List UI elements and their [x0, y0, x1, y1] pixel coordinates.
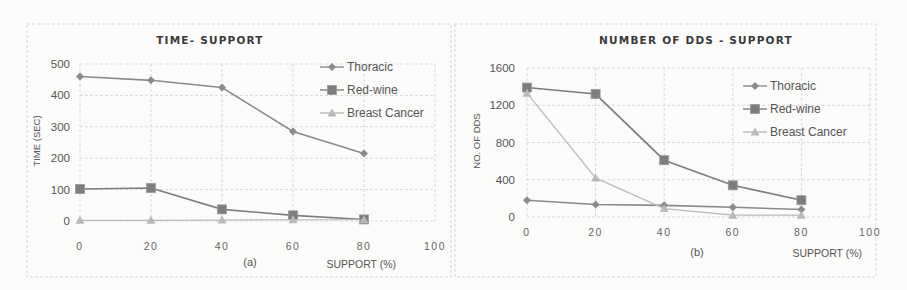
chart-frame: [455, 24, 876, 277]
x-tick-label: 20: [144, 240, 159, 252]
thoracic-marker: [289, 128, 297, 136]
chart-title: NUMBER OF DDS - SUPPORT: [599, 34, 793, 46]
x-tick-label: 60: [286, 240, 301, 252]
y-tick-label: 300: [51, 121, 70, 133]
legend-label: Thoracic: [770, 79, 816, 93]
red-wine-marker: [797, 196, 806, 205]
x-tick-label: 20: [588, 226, 603, 238]
y-tick-label: 400: [496, 174, 515, 186]
legend-thoracic-marker: [751, 82, 759, 90]
legend-item-breast-cancer: Breast Cancer: [320, 106, 424, 120]
x-axis-label: SUPPORT (%): [792, 247, 862, 259]
x-tick-label: 60: [725, 226, 740, 238]
thoracic-marker: [360, 149, 368, 157]
y-tick-label: 400: [51, 89, 70, 101]
chart-dds-support: NUMBER OF DDS - SUPPORT04008001200160002…: [455, 24, 881, 277]
legend-label: Red-wine: [770, 102, 821, 116]
legend-red-wine-marker: [328, 86, 337, 95]
legend-label: Red-wine: [347, 83, 398, 97]
y-tick-label: 500: [51, 58, 70, 70]
y-tick-label: 1200: [489, 99, 515, 111]
x-tick-label: 40: [657, 226, 672, 238]
x-tick-label: 100: [424, 240, 446, 252]
legend: ThoracicRed-wineBreast Cancer: [320, 60, 424, 120]
legend-item-breast-cancer: Breast Cancer: [743, 125, 847, 139]
y-tick-label: 0: [64, 215, 70, 227]
red-wine-marker: [76, 184, 85, 193]
legend: ThoracicRed-wineBreast Cancer: [743, 79, 847, 139]
subfigure-caption: (a): [243, 256, 256, 268]
x-tick-label: 80: [794, 226, 809, 238]
red-wine-marker: [147, 184, 156, 193]
x-tick-label: 80: [357, 240, 372, 252]
legend-label: Thoracic: [347, 60, 393, 74]
thoracic-marker: [76, 73, 84, 81]
y-axis-label: TIME (SEC): [31, 115, 42, 166]
x-tick-label: 40: [215, 240, 230, 252]
y-tick-label: 0: [509, 211, 515, 223]
thoracic-marker: [523, 196, 531, 204]
legend-item-thoracic: Thoracic: [320, 60, 393, 74]
x-tick-label: 100: [859, 226, 881, 238]
legend-label: Breast Cancer: [770, 125, 847, 139]
legend-red-wine-marker: [751, 105, 760, 114]
thoracic-marker: [729, 203, 737, 211]
thoracic-marker: [592, 200, 600, 208]
thoracic-marker: [147, 76, 155, 84]
legend-item-red-wine: Red-wine: [743, 102, 821, 116]
chart-title: TIME- SUPPORT: [156, 34, 264, 46]
figure: TIME- SUPPORT010020030040050002040608010…: [0, 0, 907, 290]
x-axis-label: SUPPORT (%): [326, 258, 396, 270]
y-tick-label: 1600: [489, 62, 515, 74]
y-tick-label: 100: [51, 184, 70, 196]
x-tick-label: 0: [523, 226, 530, 238]
legend-thoracic-marker: [328, 63, 336, 71]
x-tick-label: 0: [76, 240, 83, 252]
y-tick-label: 800: [496, 137, 515, 149]
red-wine-marker: [660, 156, 669, 165]
red-wine-marker: [728, 181, 737, 190]
y-tick-label: 200: [51, 152, 70, 164]
red-wine-marker: [218, 205, 227, 214]
y-axis-label: NO. OF DDS: [471, 113, 482, 168]
thoracic-marker: [218, 84, 226, 92]
legend-label: Breast Cancer: [347, 106, 424, 120]
red-wine-marker: [591, 90, 600, 99]
subfigure-caption: (b): [690, 246, 703, 258]
legend-item-thoracic: Thoracic: [743, 79, 816, 93]
chart-time-support: TIME- SUPPORT010020030040050002040608010…: [27, 24, 451, 277]
